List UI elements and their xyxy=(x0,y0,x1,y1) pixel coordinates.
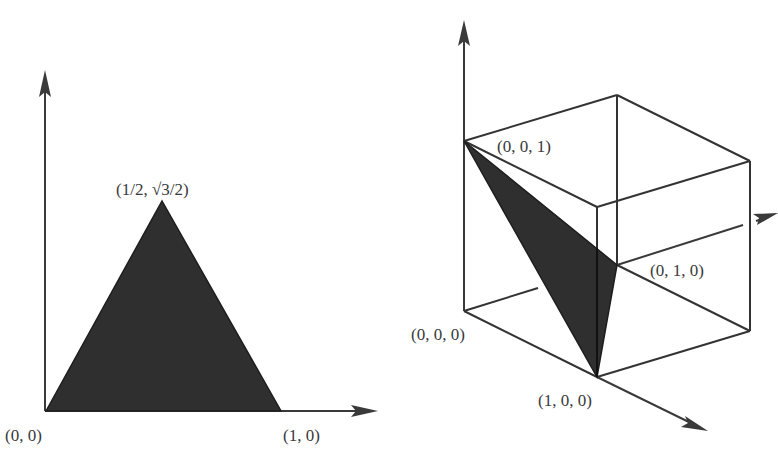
cube-edge xyxy=(617,95,750,161)
label-origin-2d: (0, 0) xyxy=(5,426,42,445)
label-x-unit-2d: (1, 0) xyxy=(283,426,320,445)
label-e3: (0, 0, 1) xyxy=(497,137,551,156)
cube-edge xyxy=(464,288,538,311)
cube-edge xyxy=(597,161,750,207)
figure-3d: (0, 0, 1) (0, 1, 0) (0, 0, 0) (1, 0, 0) xyxy=(411,20,778,431)
cube-edge xyxy=(464,95,617,141)
diagram-canvas: (0, 0) (1, 0) (1/2, √3/2) (0, 0, 1) xyxy=(0,0,778,464)
label-origin-3d: (0, 0, 0) xyxy=(411,325,465,344)
label-apex-2d: (1/2, √3/2) xyxy=(116,180,189,199)
x-axis-3d xyxy=(597,377,695,425)
shaded-triangle xyxy=(46,201,281,411)
label-e2: (0, 1, 0) xyxy=(650,261,704,280)
cube-edge xyxy=(597,331,750,377)
y-axis-3d xyxy=(617,225,743,265)
shaded-simplex xyxy=(464,141,617,377)
figure-2d: (0, 0) (1, 0) (1/2, √3/2) xyxy=(5,70,378,445)
label-e1: (1, 0, 0) xyxy=(538,391,592,410)
y-axis-3d-arrow-icon xyxy=(753,213,778,225)
x-axis-3d-arrow-icon xyxy=(681,416,708,431)
